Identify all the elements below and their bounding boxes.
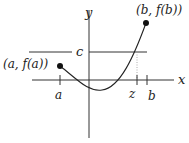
x-axis-label: x <box>178 72 186 87</box>
a-point-label: (a, f(a)) <box>3 57 48 71</box>
y-axis-label: y <box>84 5 93 20</box>
z-tick-label: z <box>128 87 136 101</box>
c-label: c <box>76 44 84 59</box>
b-point-marker <box>143 20 149 26</box>
b-tick-label: b <box>148 89 156 103</box>
a-tick-label: a <box>55 88 62 102</box>
ivt-diagram: y x c a z b (a, f(a)) (b, f(b)) <box>0 0 189 143</box>
b-point-label: (b, f(b)) <box>136 3 182 17</box>
a-point-marker <box>57 63 63 69</box>
